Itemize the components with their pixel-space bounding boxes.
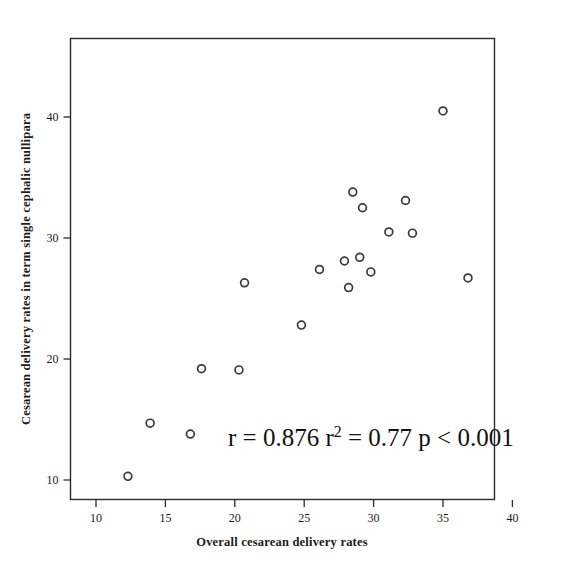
data-point: [298, 321, 306, 329]
data-point: [316, 266, 324, 274]
data-point: [146, 419, 154, 427]
data-point: [385, 228, 393, 236]
x-axis-title: Overall cesarean delivery rates: [196, 535, 368, 549]
x-tick-label: 25: [298, 511, 310, 525]
y-axis-title: Cesarean delivery rates in term single c…: [19, 112, 33, 425]
data-point: [349, 188, 357, 196]
x-tick-label: 40: [506, 511, 518, 525]
x-tick-label: 20: [229, 511, 241, 525]
chart-canvas: 10152025303540 10203040 r = 0.876 r2 = 0…: [0, 0, 565, 582]
y-tick-label: 10: [47, 473, 59, 487]
data-point: [439, 107, 447, 115]
annotation-superscript: 2: [334, 423, 342, 440]
y-tick-label: 30: [47, 231, 59, 245]
x-tick-label: 15: [159, 511, 171, 525]
x-tick-label: 10: [90, 511, 102, 525]
data-point: [345, 284, 353, 292]
y-tick-label: 40: [47, 110, 59, 124]
data-point: [356, 253, 364, 261]
scatter-plot-figure: 10152025303540 10203040 r = 0.876 r2 = 0…: [0, 0, 565, 582]
annotation-segment: r = 0.876 r: [228, 424, 334, 451]
data-point: [235, 366, 243, 374]
x-tick-label: 35: [437, 511, 449, 525]
data-point: [341, 257, 349, 265]
stats-annotation-text: r = 0.876 r2 = 0.77 p < 0.001: [228, 423, 514, 451]
x-axis-ticks: 10152025303540: [90, 500, 518, 525]
data-point: [359, 204, 367, 212]
data-point: [367, 268, 375, 276]
annotation-segment: = 0.77 p < 0.001: [342, 424, 514, 451]
data-point: [464, 274, 472, 282]
data-point: [186, 430, 194, 438]
x-tick-label: 30: [368, 511, 380, 525]
stats-annotation: r = 0.876 r2 = 0.77 p < 0.001: [228, 423, 514, 451]
data-point: [409, 229, 417, 237]
y-tick-label: 20: [47, 352, 59, 366]
data-point: [124, 472, 132, 480]
data-point: [198, 365, 206, 373]
data-point: [402, 197, 410, 205]
y-axis-ticks: 10203040: [47, 110, 71, 487]
data-point: [241, 279, 249, 287]
